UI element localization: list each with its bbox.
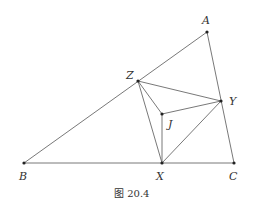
- point-z: [136, 79, 139, 82]
- label-j: J: [166, 118, 173, 131]
- label-x: X: [155, 170, 165, 183]
- segment-jy: [162, 101, 221, 114]
- point-a: [205, 30, 208, 33]
- figure-caption: 图 20.4: [114, 188, 149, 199]
- point-c: [232, 161, 235, 164]
- segment-xy: [162, 101, 221, 163]
- label-a: A: [201, 14, 210, 27]
- label-z: Z: [125, 69, 134, 82]
- geometry-figure: A Z Y J B X C 图 20.4: [0, 0, 256, 215]
- label-c: C: [229, 170, 238, 183]
- label-y: Y: [229, 95, 238, 108]
- point-y: [219, 99, 222, 102]
- segment-zx: [138, 81, 162, 163]
- label-b: B: [18, 170, 27, 183]
- point-b: [22, 161, 25, 164]
- point-j: [160, 112, 163, 115]
- point-x: [160, 161, 163, 164]
- segment-ab: [24, 32, 207, 163]
